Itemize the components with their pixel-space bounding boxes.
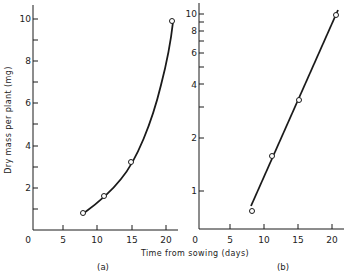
panel-a-x-ticks bbox=[63, 225, 166, 230]
svg-text:0: 0 bbox=[192, 235, 198, 245]
data-point bbox=[129, 160, 134, 165]
panel-a-data-points bbox=[81, 19, 175, 216]
data-point bbox=[81, 211, 86, 216]
svg-text:10: 10 bbox=[91, 235, 103, 245]
panel-b-fitted-line bbox=[251, 10, 338, 206]
y-axis-label: Dry mass per plant (mg) bbox=[4, 66, 13, 173]
svg-text:6: 6 bbox=[25, 98, 31, 108]
panel-a-x-tick-labels: 0 5 10 15 20 bbox=[25, 235, 172, 245]
svg-text:1: 1 bbox=[191, 186, 197, 196]
panel-a-fitted-curve bbox=[84, 22, 173, 213]
data-point bbox=[334, 13, 339, 18]
panel-a-y-tick-labels: 2 4 6 8 10 bbox=[20, 14, 32, 193]
svg-text:8: 8 bbox=[25, 56, 31, 66]
data-point bbox=[102, 194, 107, 199]
svg-text:20: 20 bbox=[326, 235, 338, 245]
svg-text:5: 5 bbox=[60, 235, 66, 245]
svg-text:10: 10 bbox=[20, 14, 32, 24]
data-point bbox=[270, 154, 275, 159]
panel-a-y-ticks bbox=[33, 19, 38, 209]
x-axis-label: Time from sowing (days) bbox=[140, 249, 249, 258]
data-point bbox=[250, 209, 255, 214]
panel-b-x-tick-labels: 0 5 10 15 20 bbox=[192, 235, 338, 245]
data-point bbox=[297, 98, 302, 103]
panel-b-label: (b) bbox=[277, 262, 289, 272]
panel-b bbox=[199, 3, 344, 229]
svg-text:0: 0 bbox=[25, 235, 31, 245]
panel-b-y-tick-labels: 1 2 4 6 8 10 bbox=[186, 9, 198, 196]
panel-a-label: (a) bbox=[97, 262, 109, 272]
svg-text:6: 6 bbox=[191, 48, 197, 58]
svg-text:10: 10 bbox=[186, 9, 198, 19]
panel-b-data-points bbox=[250, 13, 339, 214]
panel-b-x-ticks bbox=[230, 224, 332, 229]
svg-text:4: 4 bbox=[25, 141, 31, 151]
panel-a bbox=[33, 5, 178, 230]
svg-text:15: 15 bbox=[292, 235, 303, 245]
svg-text:15: 15 bbox=[126, 235, 137, 245]
figure: 0 5 10 15 20 2 4 6 8 10 Dry mass per pla… bbox=[0, 0, 350, 275]
svg-text:4: 4 bbox=[191, 80, 197, 90]
svg-text:5: 5 bbox=[227, 235, 233, 245]
svg-text:2: 2 bbox=[25, 183, 31, 193]
svg-text:8: 8 bbox=[191, 26, 197, 36]
panel-b-y-ticks bbox=[199, 14, 204, 191]
data-point bbox=[170, 19, 175, 24]
svg-text:2: 2 bbox=[191, 133, 197, 143]
svg-text:20: 20 bbox=[160, 235, 172, 245]
svg-text:10: 10 bbox=[258, 235, 270, 245]
